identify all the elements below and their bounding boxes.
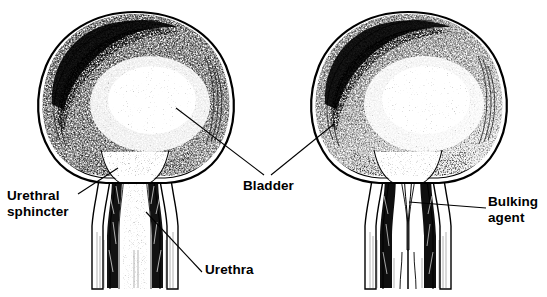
label-urethra: Urethra bbox=[205, 262, 254, 278]
label-bulking-agent: Bulkingagent bbox=[488, 194, 538, 225]
label-bladder: Bladder bbox=[243, 178, 294, 194]
bladder-illustration bbox=[0, 0, 547, 297]
illustration-page: Urethralsphincter Bladder Urethra Bulkin… bbox=[0, 0, 547, 297]
label-bulking-agent-line2: agent bbox=[488, 210, 525, 225]
label-urethral-sphincter: Urethralsphincter bbox=[7, 188, 69, 219]
label-urethral-sphincter-line1: Urethral bbox=[7, 188, 60, 203]
label-bulking-agent-line1: Bulking bbox=[488, 194, 538, 209]
label-urethral-sphincter-line2: sphincter bbox=[7, 204, 69, 219]
